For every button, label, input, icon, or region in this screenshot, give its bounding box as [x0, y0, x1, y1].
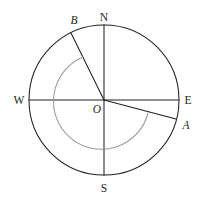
label-north: N [100, 11, 109, 23]
ray-ob [71, 33, 104, 100]
label-center-o: O [93, 103, 102, 115]
label-east: E [184, 94, 191, 106]
label-west: W [14, 94, 25, 106]
label-south: S [101, 182, 107, 194]
compass-diagram: N S E W O A B [0, 0, 210, 199]
ray-oa [104, 100, 176, 119]
label-point-b: B [70, 14, 77, 26]
label-point-a: A [181, 119, 190, 131]
compass-figure: N S E W O A B [0, 0, 210, 199]
